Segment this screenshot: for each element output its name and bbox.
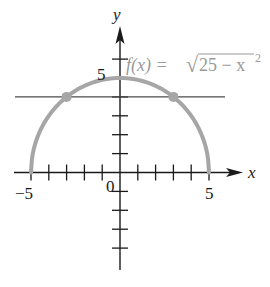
function-label-prefix: f(x) =	[126, 55, 168, 76]
function-label-radicand: 25 − x	[199, 55, 245, 75]
y-tick-label-5: 5	[97, 65, 106, 84]
x-tick-label-neg5: −5	[15, 184, 33, 203]
intersection-point	[168, 92, 178, 102]
function-label: f(x) = √ 25 − x 2	[126, 51, 261, 77]
semicircle-diagram: x y 0 −5 5 5 f(x) = √ 25 − x 2	[0, 0, 270, 287]
origin-label: 0	[106, 177, 115, 196]
y-axis-label: y	[111, 5, 121, 24]
radical-sign-icon: √	[186, 52, 199, 77]
function-label-exponent: 2	[255, 51, 261, 65]
x-tick-label-5: 5	[205, 184, 214, 203]
intersection-point	[62, 92, 72, 102]
x-axis-label: x	[247, 163, 256, 182]
